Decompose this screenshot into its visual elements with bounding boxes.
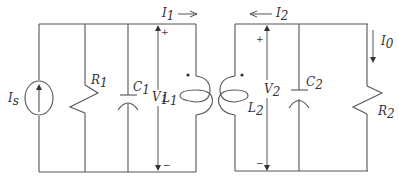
label-l2: L2 [247,101,264,118]
label-is: Is [7,91,19,108]
resistor-r1 [70,85,98,113]
label-i1: I1 [161,6,174,23]
label-r1: R1 [90,73,108,90]
dot-l2 [240,73,243,76]
coupled-inductor-l1 [180,73,212,115]
label-r2: R2 [377,104,395,121]
circuit-diagram: Is R1 C1 V1 + − I1 L1 L2 [0,0,399,182]
right-circuit-frame [235,24,368,171]
v2-minus-sign: − [256,158,264,168]
coupled-inductor-l2 [219,73,248,115]
label-i2: I2 [275,6,288,23]
v2-plus-sign: + [256,34,264,44]
v1-plus-sign: + [161,27,169,37]
dot-l1 [186,73,189,76]
label-v2: V2 [264,82,280,99]
label-c2: C2 [306,75,323,92]
label-i0: I0 [380,34,394,51]
v1-minus-sign: − [163,160,171,170]
current-source-is [25,81,53,115]
